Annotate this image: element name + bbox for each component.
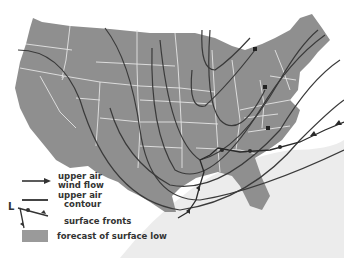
arrow-line-icon: [22, 177, 52, 185]
legend-item-surface-low: forecast of surface low: [22, 230, 167, 242]
legend-label: wind flow: [58, 181, 104, 190]
legend-label: surface fronts: [64, 217, 131, 226]
legend-item-surface-fronts: L surface fronts: [8, 200, 131, 230]
low-marker: L: [8, 201, 15, 212]
legend-label: forecast of surface low: [57, 232, 167, 241]
legend-item-wind-flow: upper air wind flow: [22, 172, 104, 190]
front-symbol-icon: L: [8, 200, 54, 230]
gray-box-icon: [22, 230, 48, 242]
map-legend: upper air wind flow upper air contour L …: [22, 172, 222, 252]
